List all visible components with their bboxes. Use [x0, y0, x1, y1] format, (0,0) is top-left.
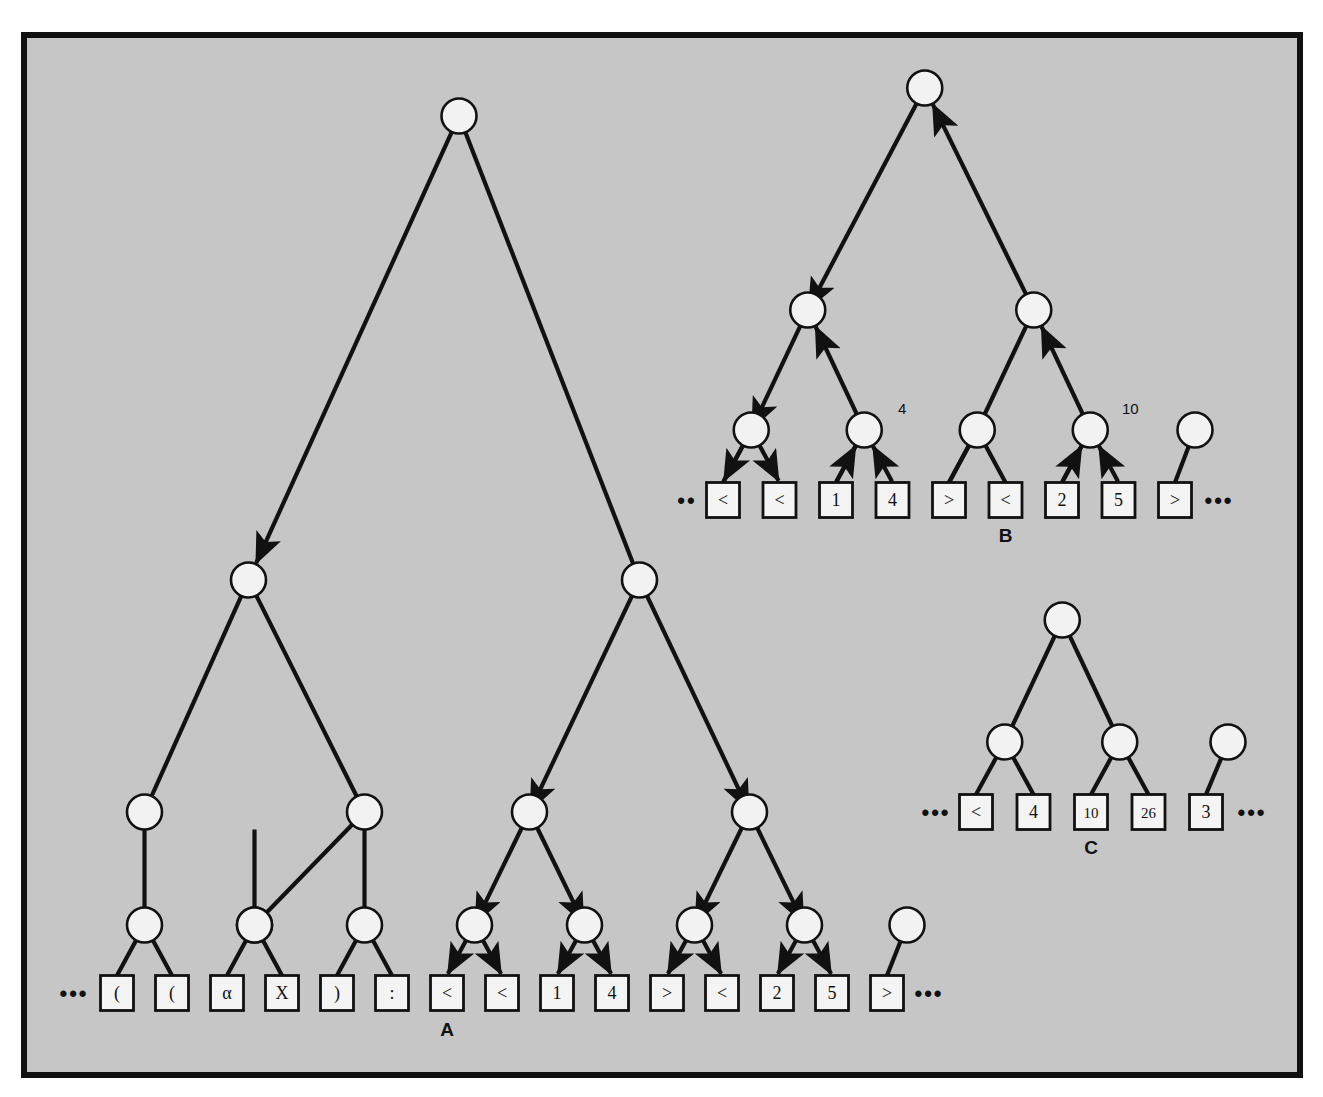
ellipsis-b-right: •••: [1204, 488, 1233, 513]
ellipsis-c-right: •••: [1237, 800, 1266, 825]
token-label: 2: [773, 983, 782, 1003]
ellipsis-a-right: •••: [914, 981, 943, 1006]
node-b-root: [907, 71, 942, 106]
figure-page: ((αX):<<14><25>••••••A<<14><25>•••••B410…: [0, 0, 1323, 1097]
node-b-l1-left: [790, 293, 825, 328]
node-a-l3-6: [787, 908, 822, 943]
node-annotation-4: 4: [898, 400, 906, 417]
token-label: 10: [1084, 805, 1099, 821]
node-a-l1-left: [231, 563, 266, 598]
node-a-l3-1: [237, 908, 272, 943]
node-b-l2-c2: [960, 413, 995, 448]
token-label: <: [718, 490, 728, 510]
node-a-l3-3: [457, 908, 492, 943]
node-a-root: [442, 99, 477, 134]
node-a-l3-4: [567, 908, 602, 943]
node-a-l3-5: [677, 908, 712, 943]
node-c-l1-left: [987, 725, 1022, 760]
token-label: 1: [553, 983, 562, 1003]
tree-edges-layer: [117, 103, 1221, 975]
token-label: ): [334, 983, 340, 1004]
token-label: 26: [1141, 805, 1157, 821]
token-label: 2: [1058, 490, 1067, 510]
node-c-l1-right: [1102, 725, 1137, 760]
ellipsis-c-left: •••: [921, 800, 950, 825]
token-label: <: [717, 983, 727, 1003]
node-b-l2-c1: [847, 413, 882, 448]
ellipsis-b-left: ••: [677, 488, 696, 513]
node-a-l3-last: [890, 908, 925, 943]
node-b-l2-c3: [1073, 413, 1108, 448]
token-label: >: [882, 983, 892, 1003]
node-annotation-10: 10: [1122, 400, 1139, 417]
token-label: α: [222, 983, 232, 1003]
tree-c-label: C: [1084, 837, 1098, 858]
token-label: 5: [1114, 490, 1123, 510]
text-layer: ((αX):<<14><25>••••••A<<14><25>•••••B410…: [59, 400, 1266, 1040]
tree-diagram-canvas: ((αX):<<14><25>••••••A<<14><25>•••••B410…: [0, 0, 1323, 1097]
node-b-l2-last: [1178, 413, 1213, 448]
ellipsis-a-left: •••: [59, 981, 88, 1006]
node-b-l1-right: [1016, 293, 1051, 328]
node-a-l2-2: [512, 795, 547, 830]
node-b-l2-c0: [734, 413, 769, 448]
token-label: <: [497, 983, 507, 1003]
token-label: >: [1170, 490, 1180, 510]
node-a-l3-2: [347, 908, 382, 943]
token-label: 4: [1029, 802, 1038, 822]
node-a-l2-0: [127, 795, 162, 830]
token-label: :: [389, 983, 394, 1003]
token-label: 3: [1202, 802, 1211, 822]
token-label: 1: [832, 490, 841, 510]
node-a-l3-0: [127, 908, 162, 943]
token-label: 4: [888, 490, 897, 510]
token-label: 4: [608, 983, 617, 1003]
node-c-root: [1045, 603, 1080, 638]
token-label: (: [169, 983, 175, 1004]
token-label: >: [944, 490, 954, 510]
token-label: >: [662, 983, 672, 1003]
node-a-l2-1: [347, 795, 382, 830]
token-label: <: [774, 490, 784, 510]
tree-b-label: B: [999, 525, 1013, 546]
node-a-l1-right: [622, 563, 657, 598]
token-label: <: [1000, 490, 1010, 510]
tree-a-label: A: [440, 1019, 454, 1040]
token-label: <: [442, 983, 452, 1003]
node-c-l1-last: [1211, 725, 1246, 760]
token-label: X: [276, 983, 289, 1003]
node-a-l2-3: [732, 795, 767, 830]
token-label: 5: [828, 983, 837, 1003]
token-label: <: [971, 802, 981, 822]
token-label: (: [114, 983, 120, 1004]
